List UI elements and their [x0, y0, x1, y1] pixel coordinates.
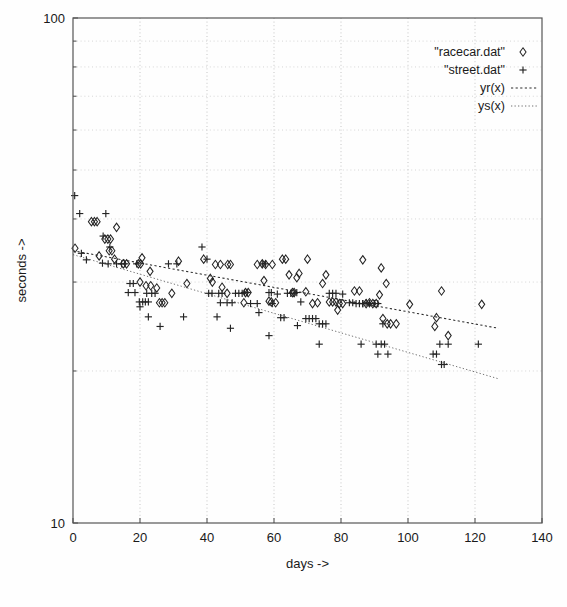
legend-label: "street.dat" [444, 63, 505, 77]
data-point-diamond [520, 48, 526, 56]
data-point-diamond [114, 223, 120, 231]
data-point-plus [198, 243, 205, 250]
data-point-diamond [433, 313, 439, 321]
data-point-plus [339, 290, 346, 297]
data-point-plus [254, 300, 261, 307]
x-tick-label: 20 [133, 530, 147, 545]
data-point-plus [433, 351, 440, 358]
data-point-diamond [184, 279, 190, 287]
fit-lines-layer [73, 251, 498, 379]
scatter-plot: 02040608010012014010100days ->seconds ->… [0, 0, 567, 607]
data-point-plus [157, 323, 164, 330]
figure-caption [0, 591, 567, 607]
legend-label: "racecar.dat" [434, 45, 505, 59]
legend-layer: "racecar.dat""street.dat"yr(x)ys(x) [434, 45, 537, 113]
x-tick-label: 40 [200, 530, 214, 545]
x-tick-label: 120 [464, 530, 486, 545]
data-point-plus [180, 313, 187, 320]
data-point-plus [227, 325, 234, 332]
x-tick-label: 60 [267, 530, 281, 545]
x-tick-label: 0 [69, 530, 76, 545]
x-tick-label: 140 [531, 530, 553, 545]
data-point-plus [229, 299, 236, 306]
data-point-plus [436, 341, 443, 348]
data-point-plus [125, 289, 132, 296]
data-point-diamond [147, 267, 153, 275]
data-point-plus [381, 341, 388, 348]
data-point-diamond [432, 322, 438, 330]
data-point-plus [358, 341, 365, 348]
data-point-plus [76, 210, 83, 217]
data-point-plus [384, 351, 391, 358]
x-axis-title: days -> [286, 556, 329, 571]
series-diamond [72, 218, 485, 340]
data-point-diamond [303, 288, 309, 296]
data-point-plus [105, 260, 112, 267]
data-point-diamond [241, 299, 247, 307]
data-point-diamond [169, 289, 175, 297]
data-point-diamond [286, 271, 292, 279]
data-point-plus [274, 290, 281, 297]
data-point-diamond [261, 276, 267, 284]
data-point-diamond [378, 264, 384, 272]
data-points-layer [71, 192, 485, 368]
data-point-plus [218, 290, 225, 297]
data-point-diamond [383, 279, 389, 287]
data-point-plus [78, 250, 85, 257]
data-point-diamond [269, 260, 275, 268]
plot-frame [73, 18, 542, 523]
data-point-diamond [360, 256, 366, 264]
data-point-plus [217, 299, 224, 306]
grid-layer [73, 18, 542, 523]
axis-ticks-layer [73, 18, 542, 523]
data-point-plus [131, 289, 138, 296]
data-point-plus [316, 341, 323, 348]
data-point-plus [445, 341, 452, 348]
data-point-plus [374, 351, 381, 358]
data-point-diamond [323, 271, 329, 279]
data-point-diamond [438, 287, 444, 295]
data-point-plus [294, 322, 301, 329]
data-point-plus [102, 210, 109, 217]
plot-frame-layer [73, 18, 542, 523]
data-point-diamond [407, 300, 413, 308]
data-point-plus [519, 66, 526, 73]
data-point-plus [165, 260, 172, 267]
data-point-plus [99, 260, 106, 267]
data-point-plus [173, 260, 180, 267]
x-tick-label: 80 [334, 530, 348, 545]
data-point-diamond [445, 331, 451, 339]
data-point-diamond [320, 279, 326, 287]
y-tick-label: 10 [51, 516, 65, 531]
data-point-diamond [304, 255, 310, 263]
data-point-plus [332, 290, 339, 297]
x-tick-label: 100 [397, 530, 419, 545]
legend-label: yr(x) [480, 81, 505, 95]
data-point-plus [130, 280, 137, 287]
data-point-plus [297, 298, 304, 305]
y-axis-title: seconds -> [14, 239, 29, 303]
data-point-plus [475, 341, 482, 348]
data-point-plus [213, 313, 220, 320]
figure-container: 02040608010012014010100days ->seconds ->… [0, 0, 567, 607]
data-point-plus [71, 192, 78, 199]
data-point-plus [322, 320, 329, 327]
data-point-diamond [377, 291, 383, 299]
data-point-plus [312, 315, 319, 322]
data-point-plus [349, 299, 356, 306]
data-point-plus [265, 332, 272, 339]
series-plus [71, 192, 482, 368]
data-point-diamond [479, 300, 485, 308]
y-tick-label: 100 [43, 11, 65, 26]
axis-labels-layer: 02040608010012014010100days ->seconds -> [14, 11, 553, 571]
legend-label: ys(x) [478, 99, 505, 113]
data-point-plus [145, 313, 152, 320]
